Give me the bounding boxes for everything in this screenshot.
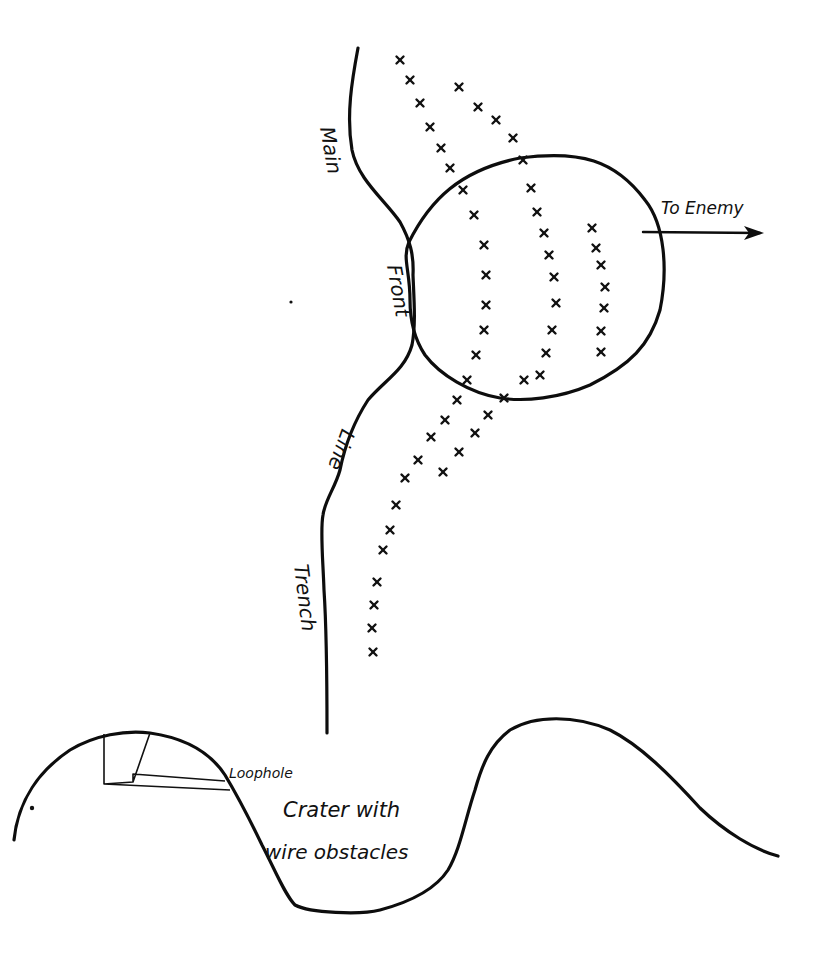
x-mark-icon <box>551 274 558 281</box>
wire-obstacle-marks <box>369 57 609 656</box>
label-main: Main <box>315 125 347 176</box>
x-mark-icon <box>471 212 478 219</box>
x-mark-icon <box>442 417 449 424</box>
to-enemy-arrow <box>643 232 760 233</box>
x-mark-icon <box>407 77 414 84</box>
x-mark-icon <box>493 117 500 124</box>
x-mark-icon <box>454 397 461 404</box>
x-mark-icon <box>593 245 600 252</box>
x-mark-icon <box>598 349 605 356</box>
label-to-enemy: To Enemy <box>661 198 745 218</box>
x-mark-icon <box>534 209 541 216</box>
x-mark-icon <box>397 57 404 64</box>
x-mark-icon <box>402 475 409 482</box>
label-front: Front <box>382 263 415 320</box>
label-line: Line <box>323 426 360 473</box>
x-mark-icon <box>393 502 400 509</box>
x-mark-icon <box>485 412 492 419</box>
loophole-structure <box>104 733 230 790</box>
x-mark-icon <box>456 84 463 91</box>
x-mark-icon <box>521 377 528 384</box>
x-mark-icon <box>589 225 596 232</box>
label-trench: Trench <box>289 563 321 633</box>
x-mark-icon <box>475 104 482 111</box>
x-mark-icon <box>510 135 517 142</box>
x-mark-icon <box>370 649 377 656</box>
x-mark-icon <box>528 185 535 192</box>
ink-dot <box>289 300 292 303</box>
x-mark-icon <box>369 625 376 632</box>
x-mark-icon <box>428 434 435 441</box>
x-mark-icon <box>472 430 479 437</box>
x-mark-icon <box>541 230 548 237</box>
x-mark-icon <box>481 242 488 249</box>
x-mark-icon <box>537 372 544 379</box>
x-mark-icon <box>374 579 381 586</box>
x-mark-icon <box>387 527 394 534</box>
x-mark-icon <box>380 547 387 554</box>
x-mark-icon <box>415 457 422 464</box>
x-mark-icon <box>602 284 609 291</box>
label-crater-line2: wire obstacles <box>265 840 409 864</box>
x-mark-icon <box>464 377 471 384</box>
x-mark-icon <box>546 252 553 259</box>
x-mark-icon <box>417 100 424 107</box>
x-mark-icon <box>447 165 454 172</box>
label-crater-line1: Crater with <box>283 798 400 822</box>
x-mark-icon <box>440 469 447 476</box>
x-mark-icon <box>598 328 605 335</box>
x-mark-icon <box>598 262 605 269</box>
x-mark-icon <box>483 272 490 279</box>
x-mark-icon <box>549 327 556 334</box>
x-mark-icon <box>427 124 434 131</box>
ink-dot <box>30 806 34 810</box>
x-mark-icon <box>371 602 378 609</box>
x-mark-icon <box>481 327 488 334</box>
trench-diagram: Main Front Line Trench To Enemy Loophole… <box>0 0 821 968</box>
label-loophole: Loophole <box>229 765 293 781</box>
x-mark-icon <box>601 305 608 312</box>
x-mark-icon <box>543 350 550 357</box>
x-mark-icon <box>553 300 560 307</box>
x-mark-icon <box>483 302 490 309</box>
x-mark-icon <box>460 187 467 194</box>
x-mark-icon <box>438 145 445 152</box>
x-mark-icon <box>456 449 463 456</box>
x-mark-icon <box>473 352 480 359</box>
